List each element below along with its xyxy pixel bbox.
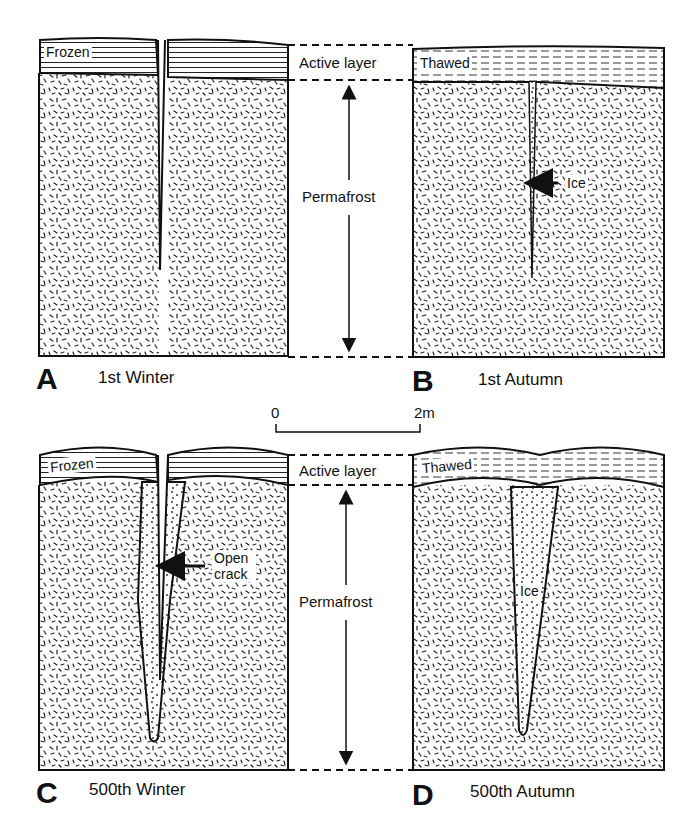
bottom-middle-markers [288, 455, 413, 770]
scale-start-label: 0 [271, 404, 279, 421]
panel-b-thawed-label: Thawed [418, 55, 472, 71]
panel-d-drawing [413, 448, 664, 771]
panel-a-caption: 1st Winter [98, 368, 175, 388]
panel-d-ice-label: Ice [518, 583, 541, 599]
panel-b-drawing [413, 46, 664, 357]
scale-end-label: 2m [414, 404, 435, 421]
bottom-active-layer-label: Active layer [299, 462, 377, 479]
bottom-permafrost-label: Permafrost [299, 593, 372, 610]
top-active-layer-label: Active layer [299, 54, 377, 71]
top-permafrost-label: Permafrost [302, 188, 375, 205]
panel-c-open-crack-label: Open crack [212, 550, 256, 582]
diagram-canvas [0, 0, 688, 830]
panel-c-caption: 500th Winter [89, 780, 185, 800]
panel-b-letter: B [412, 364, 434, 398]
panel-d-letter: D [412, 778, 434, 812]
panel-a-letter: A [36, 362, 58, 396]
panel-b-ice-label: Ice [565, 175, 588, 191]
scale-bar [276, 424, 420, 432]
panel-d-caption: 500th Autumn [470, 782, 575, 802]
panel-a-frozen-label: Frozen [44, 44, 92, 60]
panel-c-drawing [39, 448, 288, 771]
panel-c-letter: C [36, 776, 58, 810]
panel-b-caption: 1st Autumn [478, 370, 563, 390]
panel-a-drawing [39, 38, 288, 356]
